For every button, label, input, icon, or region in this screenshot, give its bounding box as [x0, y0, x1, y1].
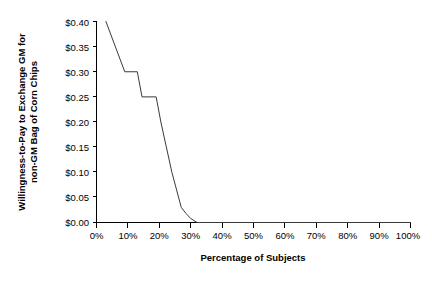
x-tick-label: 0%	[90, 230, 104, 241]
x-tick-label: 60%	[275, 230, 295, 241]
x-tick-label: 50%	[244, 230, 264, 241]
y-tick-label: $0.10	[65, 167, 89, 178]
y-tick-label: $0.30	[65, 67, 89, 78]
chart-figure: $0.40 $0.35 $0.30 $0.25 $0.20 $0.15 $0.1…	[0, 0, 432, 285]
x-axis-title: Percentage of Subjects	[200, 252, 305, 263]
y-tick-label: $0.25	[65, 92, 89, 103]
x-tick-label: 20%	[150, 230, 170, 241]
x-tick-label: 10%	[118, 230, 138, 241]
y-axis-title-line1: Willingness-to-Pay to Exchange GM for	[16, 33, 27, 211]
y-tick-label: $0.15	[65, 142, 89, 153]
x-tick-label: 40%	[213, 230, 233, 241]
x-tick-label: 70%	[307, 230, 327, 241]
y-tick-label: $0.40	[65, 17, 89, 28]
y-tick-label: $0.00	[65, 217, 89, 228]
y-axis-title-line2: non-GM Bag of Corn Chips	[28, 61, 39, 183]
y-tick-label: $0.05	[65, 192, 89, 203]
y-axis-title: Willingness-to-Pay to Exchange GM for no…	[16, 33, 39, 211]
x-tick-label: 80%	[338, 230, 358, 241]
willingness-to-pay-line-chart: $0.40 $0.35 $0.30 $0.25 $0.20 $0.15 $0.1…	[0, 0, 432, 285]
y-axis	[93, 22, 97, 223]
x-tick-label: 100%	[396, 230, 421, 241]
x-axis-tick-labels: 0% 10% 20% 30% 40% 50% 60% 70% 80% 90% 1…	[90, 230, 421, 241]
y-tick-label: $0.20	[65, 117, 89, 128]
y-tick-label: $0.35	[65, 42, 89, 53]
wtp-series-line	[106, 22, 411, 223]
y-axis-tick-labels: $0.40 $0.35 $0.30 $0.25 $0.20 $0.15 $0.1…	[65, 17, 89, 228]
x-tick-label: 30%	[181, 230, 201, 241]
x-axis	[97, 223, 411, 228]
x-tick-label: 90%	[370, 230, 390, 241]
